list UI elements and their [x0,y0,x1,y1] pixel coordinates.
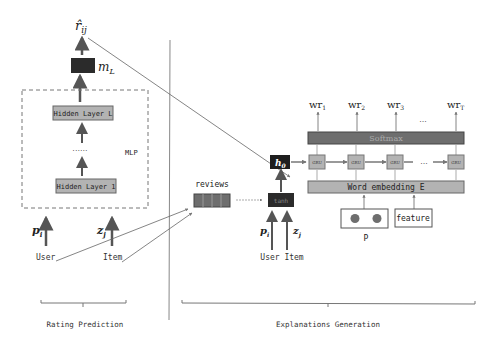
mlp-label: MLP [125,149,138,157]
item-to-reviews [122,213,192,262]
p2-label: pi [260,225,270,238]
gru-cell-label: GRU [390,160,400,165]
gru-cell-label: GRU [351,160,361,165]
tanh-label: tanh [274,197,289,204]
z-label: zj [96,224,106,239]
reviews-label: reviews [195,180,229,189]
rating-section-label: Rating Prediction [47,320,124,329]
gru-cell-label: GRU [451,160,461,165]
z2-label: zj [292,225,302,239]
rating-bracket [41,300,126,307]
item-label: Item [103,253,122,262]
output-word-label: wr2 [348,99,365,111]
gru-dots: ... [420,157,428,166]
reviews-vector [194,194,230,207]
rating-output-label: r̂ij [75,18,87,35]
output-word-label: wr1 [309,99,326,111]
p-circle-2 [373,214,382,223]
explanation-section-label: Explanations Generation [276,320,380,329]
output-word-label: wrT [447,99,464,111]
gru-cell-label: GRU [312,160,322,165]
hidden-layer-top-label: Hidden Layer L [53,110,112,118]
m-l-label: mL [98,60,115,76]
word-embedding-label: Word embedding E [347,183,424,192]
output-word-label: wr3 [387,99,404,111]
user-label: User [36,253,55,262]
m-l-box [71,58,95,73]
diagram-canvas: r̂ij mL Hidden Layer L ...... Hidden Lay… [0,0,496,346]
user-item-label: User Item [260,253,304,262]
p-circle-1 [351,214,360,223]
output-dots: ... [419,115,427,124]
hidden-layer-bottom-label: Hidden Layer 1 [56,183,115,191]
feature-label: feature [396,214,430,223]
explanation-bracket [182,300,475,307]
p-box-label: P [364,234,369,243]
p-label: pi [32,224,43,239]
section-divider [169,40,170,320]
softmax-label: Softmax [369,134,403,143]
hidden-dots: ...... [72,144,87,153]
rating-to-h0-line [88,38,290,177]
